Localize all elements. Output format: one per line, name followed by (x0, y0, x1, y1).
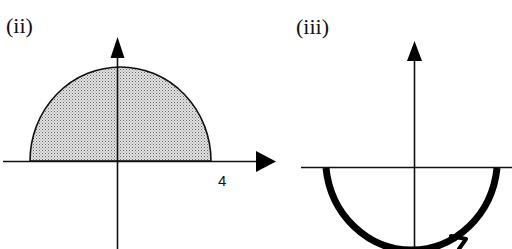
lower-semicircle-curve (326, 168, 497, 249)
shaded-upper-semicircle-region (30, 67, 211, 161)
y-axis-arrow-icon-iii (407, 41, 422, 61)
panel-iii: (iii) (296, 14, 512, 249)
x-tick-label-4: 4 (218, 172, 226, 189)
panel-iii-label: (iii) (296, 14, 329, 39)
panel-ii-label: (ii) (6, 13, 33, 38)
panel-ii: (ii) 4 (3, 13, 276, 249)
x-axis-arrow-icon-ii (256, 151, 276, 172)
y-axis-arrow-icon-ii (111, 37, 125, 58)
diagram-canvas: (ii) 4 (iii) (0, 0, 512, 249)
